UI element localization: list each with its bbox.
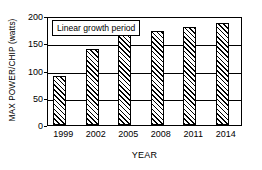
plot-area: Linear growth period	[47, 17, 242, 126]
bar-1999[interactable]	[53, 76, 66, 125]
y-tick-label-200: 200	[13, 13, 43, 22]
bar-2011[interactable]	[183, 27, 196, 125]
y-tick-label-0: 0	[13, 122, 43, 131]
y-tick-mark-0	[44, 126, 48, 127]
bar-slot-2014	[211, 18, 244, 125]
bar-2005[interactable]	[118, 32, 131, 125]
bar-2002[interactable]	[86, 49, 99, 125]
bar-2008[interactable]	[151, 31, 164, 125]
y-tick-label-150: 150	[13, 40, 43, 49]
x-tick-label-1999: 1999	[47, 129, 80, 140]
y-tick-label-50: 50	[13, 94, 43, 103]
x-tick-label-2008: 2008	[145, 129, 178, 140]
x-tick-label-2014: 2014	[210, 129, 243, 140]
y-axis-tick-labels: 200 150 100 50 0	[12, 17, 43, 126]
bar-slot-2011	[178, 18, 211, 125]
x-axis-tick-labels: 1999 2002 2005 2008 2011 2014	[47, 129, 242, 141]
bar-2014[interactable]	[216, 23, 229, 125]
bar-slot-2008	[146, 18, 179, 125]
x-tick-label-2005: 2005	[112, 129, 145, 140]
x-axis-title: YEAR	[47, 150, 242, 160]
bar-chart-figure: MAX POWER/CHIP (watts) 200 150 100 50 0	[0, 0, 262, 170]
x-tick-label-2002: 2002	[80, 129, 113, 140]
annotation-linear-growth-period: Linear growth period	[52, 20, 140, 36]
y-tick-label-100: 100	[13, 67, 43, 76]
x-tick-label-2011: 2011	[177, 129, 210, 140]
